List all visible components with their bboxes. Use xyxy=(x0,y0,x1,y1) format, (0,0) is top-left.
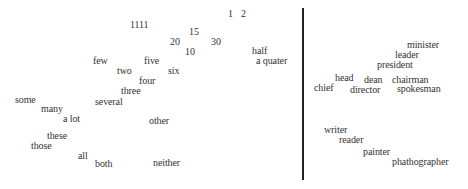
word-label: head xyxy=(335,73,353,83)
word-label: several xyxy=(95,97,123,107)
word-label: president xyxy=(377,60,413,70)
word-label: painter xyxy=(363,147,390,157)
word-label: a quater xyxy=(256,56,287,66)
word-label: 10 xyxy=(185,47,195,57)
word-label: three xyxy=(121,86,141,96)
word-label: director xyxy=(350,85,380,95)
word-label: neither xyxy=(153,158,180,168)
word-label: few xyxy=(93,56,108,66)
word-label: 2 xyxy=(241,9,246,19)
word-label: 20 xyxy=(170,37,180,47)
word-label: 1 xyxy=(228,9,233,19)
word-label: phathographer xyxy=(392,157,448,167)
word-label: both xyxy=(95,159,112,169)
word-label: chief xyxy=(314,83,334,93)
word-label: other xyxy=(149,116,169,126)
word-label: two xyxy=(117,66,132,76)
word-label: reader xyxy=(339,135,363,145)
word-label: 1111 xyxy=(130,20,149,30)
word-label: four xyxy=(139,76,155,86)
word-label: a lot xyxy=(63,114,80,124)
word-embedding-diagram: 12111115203010halfa quaterfewfivetwosixf… xyxy=(0,0,468,189)
word-label: those xyxy=(31,141,52,151)
word-label: six xyxy=(168,66,179,76)
word-label: five xyxy=(144,56,159,66)
word-label: 15 xyxy=(189,27,199,37)
word-label: all xyxy=(78,151,88,161)
word-label: many xyxy=(41,104,63,114)
panel-divider xyxy=(302,8,304,180)
word-label: some xyxy=(15,95,36,105)
word-label: 30 xyxy=(211,37,221,47)
word-label: spokesman xyxy=(397,84,441,94)
